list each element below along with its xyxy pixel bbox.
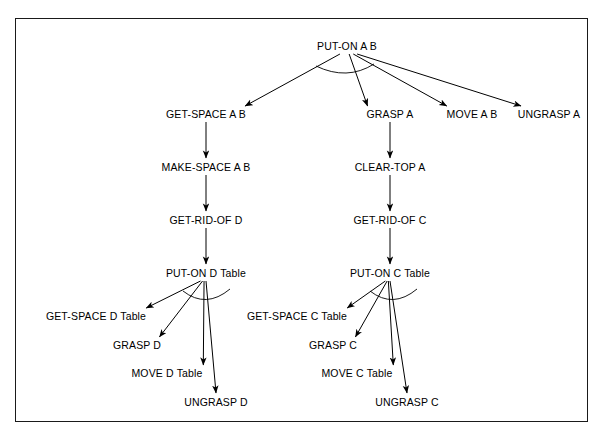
node-put-on-d-table: PUT-ON D Table — [165, 267, 247, 279]
node-grasp-c: GRASP C — [308, 339, 358, 351]
edge-put-on-a-b-to-ungrasp-a — [357, 54, 521, 106]
node-put-on-a-b: PUT-ON A B — [316, 40, 378, 52]
diagram-frame: PUT-ON A BGET-SPACE A BGRASP AMOVE A BUN… — [15, 18, 588, 422]
node-move-d-table: MOVE D Table — [130, 367, 203, 379]
node-get-space-a-b: GET-SPACE A B — [165, 108, 247, 120]
node-put-on-c-table: PUT-ON C Table — [349, 267, 431, 279]
and-connector-arcs-group — [183, 64, 417, 300]
graph-edges-layer — [16, 19, 588, 422]
edge-put-on-a-b-to-grasp-a — [349, 54, 367, 106]
node-move-a-b: MOVE A B — [446, 108, 499, 120]
edge-put-on-c-table-to-grasp-c — [355, 281, 387, 337]
node-get-rid-of-d: GET-RID-OF D — [169, 214, 244, 226]
node-get-rid-of-c: GET-RID-OF C — [353, 214, 428, 226]
node-ungrasp-a: UNGRASP A — [517, 108, 581, 120]
edge-put-on-d-table-to-grasp-d — [159, 281, 202, 337]
node-clear-top-a: CLEAR-TOP A — [354, 161, 427, 173]
node-move-c-table: MOVE C Table — [320, 367, 393, 379]
node-get-space-d-table: GET-SPACE D Table — [45, 310, 147, 322]
node-ungrasp-c: UNGRASP C — [374, 396, 440, 408]
node-get-space-c-table: GET-SPACE C Table — [246, 310, 348, 322]
node-make-space-a-b: MAKE-SPACE A B — [161, 161, 252, 173]
edge-put-on-d-table-to-move-d-table — [203, 281, 204, 365]
and-arc-put-on-a-b — [316, 64, 374, 73]
node-grasp-a: GRASP A — [366, 108, 415, 120]
node-ungrasp-d: UNGRASP D — [183, 396, 249, 408]
edge-put-on-a-b-to-get-space-a-b — [245, 54, 340, 106]
node-grasp-d: GRASP D — [112, 339, 162, 351]
edge-put-on-c-table-to-move-c-table — [388, 281, 393, 365]
edge-put-on-a-b-to-move-a-b — [353, 54, 447, 106]
